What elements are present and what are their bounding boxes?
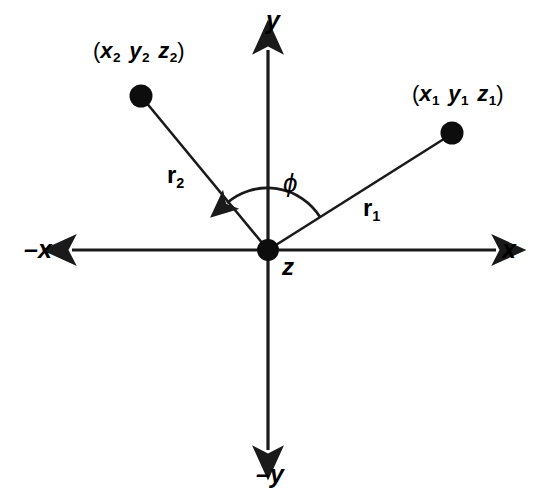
point-label-2-close-paren: ) (177, 38, 184, 63)
point-label-2: (x2 y2 z2) (93, 40, 185, 62)
point-label-1: (x1 y1 z1) (412, 83, 504, 105)
axis-label-y-positive: y (266, 8, 280, 33)
origin-label-z: z (282, 255, 294, 279)
vector-label-r1-subscript: 1 (372, 208, 380, 224)
axis-label-x-negative: –x (24, 237, 52, 262)
point-label-1-sub-y: 1 (461, 93, 469, 108)
point-label-1-var-y: y (448, 81, 460, 106)
angle-label-phi: ϕ (283, 170, 297, 196)
diagram-canvas (0, 0, 534, 503)
vector-label-r2: r2 (167, 163, 184, 187)
point-label-2-sub-x: 2 (113, 50, 121, 65)
point-label-1-var-x: x (419, 81, 431, 106)
point-label-1-sub-z: 1 (489, 93, 497, 108)
vector-label-r1: r1 (363, 196, 380, 220)
vector-label-r1-symbol: r (363, 194, 372, 221)
vector-line-r2 (145, 101, 268, 250)
physics-diagram: y –y x –x z (x2 y2 z2) (x1 y1 z1) r2 r1 … (0, 0, 534, 503)
point-label-1-sub-x: 1 (432, 93, 440, 108)
point-label-2-var-y: y (129, 38, 141, 63)
axis-label-y-negative: –y (256, 462, 284, 487)
point-label-2-var-x: x (100, 38, 112, 63)
point-label-1-close-paren: ) (496, 81, 503, 106)
point-label-2-var-z: z (158, 38, 169, 63)
point-label-2-sub-z: 2 (170, 50, 178, 65)
point-marker-1 (441, 122, 464, 145)
axis-label-x-positive: x (502, 237, 516, 262)
point-marker-2 (130, 85, 153, 108)
origin-marker (257, 239, 279, 261)
vector-label-r2-subscript: 2 (176, 175, 184, 191)
point-label-2-sub-y: 2 (142, 50, 150, 65)
angle-arc-phi (227, 188, 320, 217)
point-label-1-var-z: z (477, 81, 488, 106)
vector-label-r2-symbol: r (167, 161, 176, 188)
